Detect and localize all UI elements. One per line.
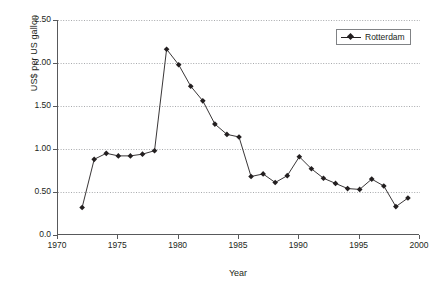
x-tick-mark <box>359 235 360 239</box>
x-tick-mark <box>298 235 299 239</box>
data-point <box>152 148 158 154</box>
x-tick-mark <box>238 235 239 239</box>
x-tick-label: 1970 <box>37 240 77 250</box>
y-tick-mark <box>53 106 58 107</box>
y-tick-mark <box>53 149 58 150</box>
data-point <box>128 153 134 159</box>
chart-figure: US$ per US gallon 0.00.501.001.502.002.5… <box>0 0 444 290</box>
x-tick-label: 1995 <box>339 240 379 250</box>
x-tick-mark <box>178 235 179 239</box>
data-point <box>284 173 290 179</box>
y-tick-label: 1.50 <box>17 100 51 110</box>
data-point <box>103 150 109 156</box>
data-point <box>79 205 85 211</box>
chart-legend: Rotterdam <box>336 29 411 45</box>
data-point <box>248 174 254 180</box>
series-group <box>79 46 410 210</box>
gridlines <box>58 21 420 193</box>
y-tick-label: 1.00 <box>17 143 51 153</box>
x-tick-label: 1990 <box>278 240 318 250</box>
x-tick-label: 1975 <box>97 240 137 250</box>
data-point <box>260 171 266 177</box>
data-point <box>140 151 146 157</box>
data-point <box>393 204 399 210</box>
data-point <box>345 186 351 192</box>
x-tick-mark <box>419 235 420 239</box>
plot-area <box>57 20 419 235</box>
x-tick-label: 2000 <box>399 240 439 250</box>
y-tick-mark <box>53 192 58 193</box>
y-tick-mark <box>53 63 58 64</box>
data-point <box>236 134 242 140</box>
data-point <box>116 153 122 159</box>
x-tick-mark <box>117 235 118 239</box>
data-point <box>333 181 339 187</box>
plot-svg <box>58 20 420 235</box>
x-tick-label: 1980 <box>158 240 198 250</box>
x-tick-mark <box>57 235 58 239</box>
data-point <box>405 195 411 201</box>
y-tick-mark <box>53 20 58 21</box>
legend-marker-icon <box>341 33 361 42</box>
y-tick-label: 0.0 <box>17 229 51 239</box>
data-point <box>91 156 97 162</box>
x-axis-title: Year <box>57 268 419 278</box>
data-point <box>381 183 387 189</box>
series-line-rotterdam <box>82 49 408 207</box>
y-tick-label: 0.50 <box>17 186 51 196</box>
data-point <box>272 180 278 186</box>
y-tick-label: 2.50 <box>17 14 51 24</box>
legend-label-rotterdam: Rotterdam <box>365 33 405 42</box>
x-tick-label: 1985 <box>218 240 258 250</box>
y-tick-label: 2.00 <box>17 57 51 67</box>
